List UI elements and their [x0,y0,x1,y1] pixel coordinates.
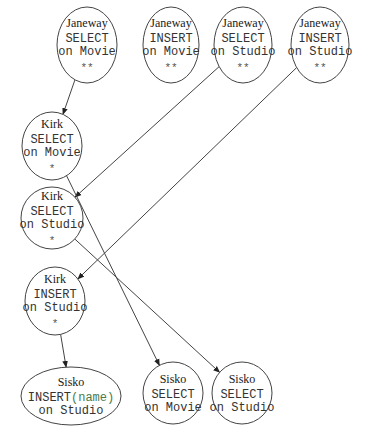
node-operation-label: INSERT [33,288,76,302]
node-janeway-insert-studio: JanewayINSERTon Studio** [288,7,353,83]
node-user-label: Kirk [41,117,63,131]
node-kirk-select-studio: KirkSELECTon Studio* [20,187,85,249]
edge-k2-to-s3 [75,239,220,372]
node-table-label: on Studio [210,401,275,415]
node-table-label: on Studio [288,45,353,59]
node-operation-label: SELECT [220,388,263,402]
node-operation-label: SELECT [151,388,194,402]
node-lock-marker: ** [313,62,326,74]
node-table-label: on Studio [23,301,88,315]
edges [61,67,297,373]
node-operation-label: SELECT [221,32,264,46]
node-lock-marker: * [49,235,56,247]
edge-k3-to-s1 [61,334,67,367]
node-operation-label: INSERT [149,32,192,46]
node-user-label: Kirk [44,272,66,286]
node-janeway-select-movie: JanewaySELECTon Movie** [57,7,117,83]
node-table-label: on Movie [23,146,81,160]
node-user-label: Janeway [150,16,191,30]
nodes: JanewaySELECTon Movie**JanewayINSERTon M… [20,7,353,425]
node-operation-label: SELECT [30,205,73,219]
node-table-label: on Movie [144,401,202,415]
node-kirk-insert-studio: KirkINSERTon Studio* [23,267,88,335]
node-user-label: Janeway [222,16,263,30]
edge-j4-to-k3 [78,68,297,279]
node-lock-marker: ** [236,62,249,74]
lock-wait-graph: JanewaySELECTon Movie**JanewayINSERTon M… [0,0,368,439]
node-table-label: on Movie [58,45,116,59]
node-lock-marker: * [49,163,56,175]
node-janeway-select-studio: JanewaySELECTon Studio** [211,7,276,83]
edge-j3-to-k2 [75,67,219,198]
node-user-label: Janeway [66,16,107,30]
node-janeway-insert-movie: JanewayINSERTon Movie** [142,7,200,83]
node-user-label: Kirk [41,189,63,203]
node-user-label: Sisko [229,372,256,386]
node-sisko-select-movie: SiskoSELECTon Movie [143,362,203,424]
node-user-label: Janeway [299,16,340,30]
node-table-label: on Studio [39,404,104,418]
node-kirk-select-movie: KirkSELECTon Movie* [22,112,82,180]
edge-k1-to-s2 [67,176,160,366]
node-table-label: on Studio [211,45,276,59]
node-operation-label: SELECT [30,133,73,147]
node-operation-label: INSERT [298,32,341,46]
node-user-label: Sisko [160,372,187,386]
node-user-label: Sisko [58,375,85,389]
node-lock-marker: * [52,318,59,330]
node-operation-label: INSERT(name) [28,391,114,405]
edge-j1-to-k1 [63,80,75,115]
node-table-label: on Studio [20,218,85,232]
node-table-label: on Movie [142,45,200,59]
node-sisko-insert-studio: SiskoINSERT(name)on Studio [21,367,121,425]
node-sisko-select-studio: SiskoSELECTon Studio [210,362,275,424]
node-lock-marker: ** [164,62,177,74]
node-operation-label: SELECT [65,32,108,46]
node-lock-marker: ** [80,62,93,74]
